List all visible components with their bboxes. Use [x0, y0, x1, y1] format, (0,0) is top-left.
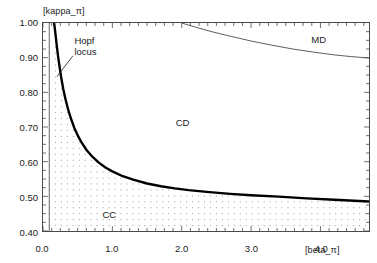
- region-label-cc: CC: [102, 208, 116, 219]
- stability-diagram-figure: [kappa_π] [beta_π] 0.400.500.600.700.800…: [0, 0, 377, 263]
- x-tick-label: 0.0: [22, 243, 62, 254]
- region-label-cd: CD: [176, 116, 190, 127]
- hopf-annotation-line2: locus: [74, 46, 96, 57]
- y-tick-label: 0.40: [2, 227, 38, 238]
- y-tick-label: 0.50: [2, 192, 38, 203]
- cd-md-boundary-curve: [182, 23, 369, 58]
- plot-area: CC CD MD Hopf locus: [42, 22, 370, 232]
- x-tick-label: 2.0: [162, 243, 202, 254]
- y-tick-label: 1.00: [2, 17, 38, 28]
- x-tick-label: 3.0: [231, 243, 271, 254]
- y-tick-label: 0.70: [2, 122, 38, 133]
- y-axis-label: [kappa_π]: [43, 6, 85, 16]
- x-tick-label: 1.0: [92, 243, 132, 254]
- hopf-annotation-line1: Hopf: [74, 35, 96, 46]
- region-label-md: MD: [311, 33, 326, 44]
- y-tick-label: 0.80: [2, 87, 38, 98]
- y-tick-label: 0.90: [2, 52, 38, 63]
- y-axis-tick-labels: 0.400.500.600.700.800.901.00: [0, 0, 38, 263]
- y-tick-label: 0.60: [2, 157, 38, 168]
- x-tick-label: 4.0: [301, 243, 341, 254]
- hopf-locus-annotation: Hopf locus: [74, 35, 96, 57]
